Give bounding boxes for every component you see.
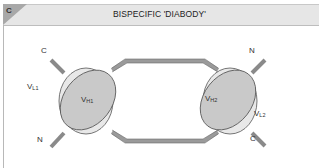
- vl2-label: VL2: [254, 109, 265, 118]
- vl1-label: VL1: [27, 82, 38, 91]
- right-top-terminus-label: N: [249, 46, 255, 55]
- left-bottom-terminus-label: N: [37, 135, 43, 144]
- right-bottom-terminus-label: C: [250, 134, 256, 143]
- vh1-label: VH1: [81, 95, 93, 104]
- diabody-diagram: [0, 0, 319, 168]
- left-top-terminus-label: C: [41, 46, 47, 55]
- vh2-label: VH2: [205, 94, 217, 103]
